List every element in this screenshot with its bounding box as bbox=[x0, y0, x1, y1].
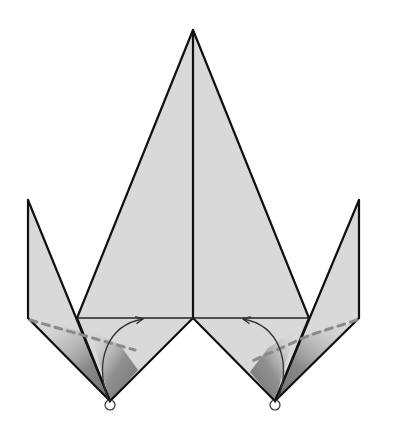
diagram-canvas bbox=[0, 0, 398, 433]
central-body bbox=[77, 30, 309, 401]
origami-diagram bbox=[0, 0, 398, 433]
